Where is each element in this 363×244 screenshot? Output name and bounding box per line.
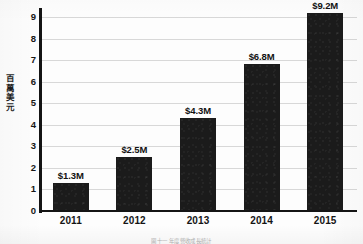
y-axis-title-char-4: 元 bbox=[3, 103, 17, 113]
bar-value-label: $6.8M bbox=[232, 51, 292, 62]
y-axis-title: 百 萬 美 元 bbox=[3, 74, 17, 112]
y-axis-tick-label: 4 bbox=[22, 119, 36, 130]
bar-chart-figure: 百 萬 美 元 0123456789 $1.3M2011$2.5M2012$4.… bbox=[0, 0, 363, 244]
x-axis-tick-label: 2015 bbox=[295, 215, 355, 226]
y-axis-line bbox=[39, 8, 42, 213]
x-axis-tick-label: 2012 bbox=[104, 215, 164, 226]
y-axis-tick-label: 6 bbox=[22, 76, 36, 87]
y-axis-tick-label: 7 bbox=[22, 54, 36, 65]
bar-value-label: $4.3M bbox=[168, 105, 228, 116]
x-axis-tick-label: 2014 bbox=[232, 215, 292, 226]
x-axis-line bbox=[39, 210, 357, 212]
x-axis-tick-label: 2011 bbox=[41, 215, 101, 226]
y-axis-tick-label: 0 bbox=[22, 205, 36, 216]
y-axis-tick-label: 2 bbox=[22, 162, 36, 173]
bar bbox=[116, 157, 152, 211]
bar-value-label: $1.3M bbox=[41, 170, 101, 181]
bar-value-label: $9.2M bbox=[295, 0, 355, 11]
x-axis-tick-label: 2013 bbox=[168, 215, 228, 226]
figure-caption: 圖十一 年度營收成長統計 bbox=[0, 237, 363, 244]
y-axis-tick-label: 1 bbox=[22, 183, 36, 194]
bar bbox=[53, 183, 89, 211]
bar bbox=[244, 64, 280, 211]
y-axis-tick-label: 9 bbox=[22, 11, 36, 22]
bar-value-label: $2.5M bbox=[104, 144, 164, 155]
bar bbox=[307, 13, 343, 211]
y-axis-tick-label: 5 bbox=[22, 97, 36, 108]
y-axis-tick-label: 3 bbox=[22, 140, 36, 151]
y-axis-tick-label: 8 bbox=[22, 33, 36, 44]
y-axis-tick-labels: 0123456789 bbox=[18, 0, 36, 244]
bar bbox=[180, 118, 216, 211]
